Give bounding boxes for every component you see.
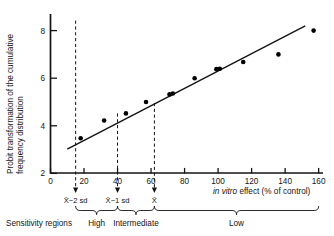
x-tick-label-160: 160 xyxy=(312,177,326,186)
reference-arrow-icon xyxy=(115,187,120,193)
data-point xyxy=(144,100,149,105)
y-tick-label-8: 8 xyxy=(40,27,45,36)
region-label: Low xyxy=(229,219,244,228)
data-point xyxy=(192,76,197,81)
x-axis-title-plain: effect (% of control) xyxy=(237,187,310,196)
probit-scatter-figure: Probit transformation of the cumulative … xyxy=(0,0,334,236)
reference-labels-group: X̄−2 sdX̄−1 sdX̄ xyxy=(64,196,157,205)
y-tick-label-6: 6 xyxy=(40,74,45,83)
reference-arrow-icon xyxy=(73,187,78,193)
data-point xyxy=(276,52,281,57)
data-point xyxy=(78,136,83,141)
y-tick-label-4: 4 xyxy=(40,122,45,131)
x-tick-label-80: 80 xyxy=(180,177,190,186)
y-axis-title-line2: frequency distribution xyxy=(16,96,25,174)
reference-arrow-icon xyxy=(152,187,157,193)
data-point xyxy=(311,28,316,33)
reference-label: X̄ xyxy=(152,196,157,205)
y-axis-tick-labels: 8 6 4 2 xyxy=(40,27,45,179)
data-point xyxy=(217,66,222,71)
sensitivity-regions-title: Sensitivity regions xyxy=(6,219,72,228)
region-brace xyxy=(76,206,118,215)
y-axis-title-line1: Probit transformation of the cumulative xyxy=(6,33,15,174)
x-axis-title: in vitro effect (% of control) xyxy=(213,187,311,196)
data-point xyxy=(241,60,246,65)
data-point xyxy=(124,111,129,116)
x-tick-label-0: 0 xyxy=(48,177,53,186)
x-axis-tick-labels: 020406080100120140160 xyxy=(48,177,326,186)
x-tick-label-140: 140 xyxy=(278,177,292,186)
x-tick-label-20: 20 xyxy=(79,177,89,186)
reference-label: X̄−2 sd xyxy=(64,196,88,205)
data-point xyxy=(102,118,107,123)
regression-line xyxy=(67,26,305,149)
reference-label: X̄−1 sd xyxy=(106,196,130,205)
y-tick-label-2: 2 xyxy=(40,169,45,178)
y-axis-ticks xyxy=(51,31,58,174)
x-axis-title-italic: in vitro xyxy=(213,187,238,196)
region-label: Intermediate xyxy=(113,219,159,228)
y-axis-title: Probit transformation of the cumulative … xyxy=(6,33,25,174)
data-points-group xyxy=(78,28,316,140)
region-label: High xyxy=(88,219,105,228)
region-brace xyxy=(118,206,155,215)
chart-canvas: Probit transformation of the cumulative … xyxy=(0,0,334,236)
x-tick-label-100: 100 xyxy=(211,177,225,186)
region-braces-group xyxy=(76,206,319,215)
reference-lines-group xyxy=(73,21,157,193)
region-brace xyxy=(154,206,318,215)
data-point xyxy=(171,91,176,96)
x-tick-label-120: 120 xyxy=(245,177,259,186)
region-labels-group: HighIntermediateLow xyxy=(88,219,244,228)
